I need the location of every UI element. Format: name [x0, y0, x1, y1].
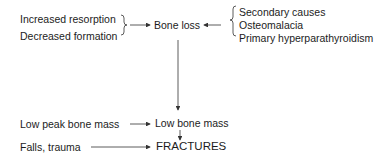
node-fractures: FRACTURES	[156, 140, 226, 152]
cause-increased-resorption: Increased resorption	[20, 13, 116, 25]
node-low-peak-bone-mass: Low peak bone mass	[20, 118, 119, 130]
node-bone-loss: Bone loss	[154, 19, 200, 31]
node-falls-trauma: Falls, trauma	[20, 141, 81, 153]
cause-decreased-formation: Decreased formation	[20, 30, 117, 42]
cause-osteomalacia: Osteomalacia	[239, 19, 303, 31]
cause-secondary: Secondary causes	[239, 6, 325, 18]
cause-primary-hyperparathyroidism: Primary hyperparathyroidism	[239, 32, 373, 44]
node-low-bone-mass: Low bone mass	[155, 117, 229, 129]
